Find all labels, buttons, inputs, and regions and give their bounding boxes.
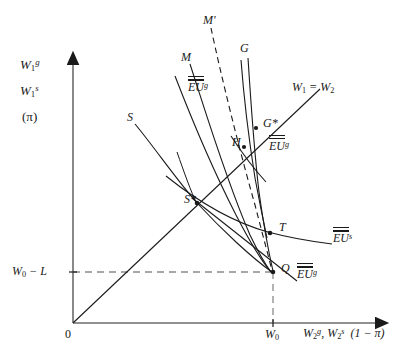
curve-label-M-prime: M'	[203, 14, 216, 26]
dot-G-star	[254, 126, 258, 130]
curve-label-w1-equals-w2: W1 = W2	[292, 81, 334, 95]
y-tick-label-w0-minus-l: W0 − L	[12, 265, 47, 279]
dot-H	[242, 145, 246, 149]
curve-label-M: M	[181, 51, 191, 63]
origin-label: 0	[65, 328, 71, 340]
point-label-S-star: S*	[184, 193, 196, 205]
x-tick-label-w0: W0	[265, 328, 279, 342]
curve-label-EUg-bar-lower: EUg	[297, 267, 317, 281]
point-label-Q: Q	[281, 262, 290, 274]
x-axis-label: W2g, W2s (1 − π)	[303, 327, 385, 341]
curve-label-S: S	[127, 111, 133, 123]
y-axis-label-pi: (π)	[22, 110, 37, 123]
eu-overline-double: EU	[269, 140, 285, 153]
curve-label-G: G	[240, 42, 249, 54]
curve-label-EUs-bar: EUs	[333, 231, 352, 245]
y-axis-label-ws: W1s	[20, 84, 39, 99]
line-w1-equals-w2	[73, 89, 320, 323]
eu-overline-single-c: EU	[297, 267, 313, 281]
point-label-T: T	[279, 221, 286, 233]
curve-label-EUg-doublebar: EUg	[269, 140, 289, 153]
curve-label-EUg-bar-upper: EUg	[188, 80, 208, 94]
point-label-G-star: G*	[263, 117, 278, 129]
dot-T	[268, 231, 273, 236]
curve-M	[190, 64, 271, 272]
guide-lines	[73, 272, 273, 323]
eu-overline-single-b: EU	[333, 231, 349, 245]
y-axis-label-wg: W1g	[20, 58, 40, 73]
point-label-H: H	[232, 136, 241, 148]
figure-canvas: W1g W1s (π) W0 − L W0 W2g, W2s (1 − π) 0…	[0, 0, 399, 364]
axis-group	[73, 62, 378, 323]
curve-G-left	[241, 60, 267, 238]
eu-overline-single-a: EU	[188, 80, 204, 94]
dot-Q	[271, 270, 276, 275]
diagram-svg	[0, 0, 399, 364]
tick-marks	[69, 272, 273, 327]
